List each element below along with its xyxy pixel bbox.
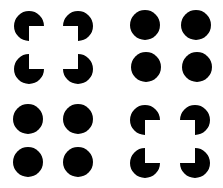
disc-shape [13,147,43,177]
disc-shape [181,10,211,40]
disc-shape [130,10,160,40]
disc-shape [63,104,93,134]
disc-shape [63,147,93,177]
disc-shape [131,52,161,82]
disc-shape [13,104,43,134]
disc-shape [182,52,212,82]
illusion-svg [0,0,223,188]
kanizsa-figure [0,0,223,188]
